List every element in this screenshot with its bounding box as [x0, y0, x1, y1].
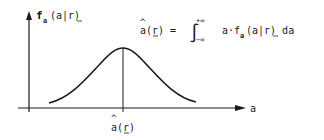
estimate-label: a(r)	[111, 122, 135, 133]
integrand-pre: a·f	[222, 25, 240, 36]
x-axis-arrow-icon	[235, 105, 246, 111]
y-axis-label-args: (a|r)	[50, 10, 80, 22]
x-axis-label: a	[250, 103, 256, 114]
density-diagram: f a (a|r) a ^ a(r) ^ a(r) = ∫ +∞ −∞ a·f …	[0, 0, 324, 140]
y-axis-label-sub: a	[43, 17, 47, 25]
integral-upper-limit: +∞	[196, 17, 205, 25]
integrand-post: (a|r) da	[246, 25, 294, 37]
equation-lhs: a(r) =	[140, 25, 176, 36]
y-axis-label-f: f	[36, 9, 43, 22]
integrand-sub: a	[240, 32, 244, 40]
y-axis-arrow-icon	[26, 11, 32, 20]
integral-lower-limit: −∞	[196, 36, 205, 44]
